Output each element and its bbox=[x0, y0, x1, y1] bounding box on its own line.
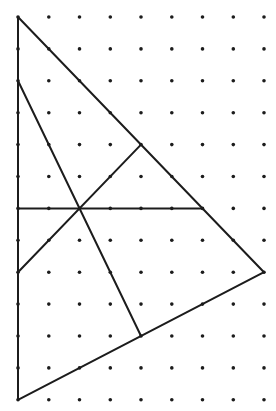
grid-dot bbox=[78, 270, 82, 274]
grid-dot bbox=[201, 175, 205, 179]
grid-dot bbox=[201, 47, 205, 51]
grid-dot bbox=[232, 302, 236, 306]
grid-dot bbox=[201, 143, 205, 147]
grid-dot bbox=[201, 15, 205, 19]
grid-dot bbox=[262, 302, 266, 306]
grid-dot bbox=[139, 398, 143, 402]
grid-dot bbox=[201, 270, 205, 274]
grid-dot bbox=[78, 15, 82, 19]
grid-dot bbox=[47, 302, 51, 306]
grid-dot bbox=[47, 79, 51, 83]
grid-dot bbox=[170, 47, 174, 51]
grid-dot bbox=[232, 111, 236, 115]
grid-dot bbox=[109, 79, 113, 83]
grid-dot bbox=[139, 111, 143, 115]
grid-dot bbox=[170, 15, 174, 19]
grid-dot bbox=[201, 398, 205, 402]
grid-dot bbox=[109, 47, 113, 51]
grid-dot bbox=[262, 398, 266, 402]
grid-dot bbox=[109, 366, 113, 370]
grid-dot bbox=[262, 207, 266, 211]
figure-lines bbox=[18, 17, 264, 400]
grid-dot bbox=[47, 175, 51, 179]
grid-dot bbox=[232, 270, 236, 274]
grid-dot bbox=[139, 366, 143, 370]
grid-dot bbox=[139, 239, 143, 243]
grid-dot bbox=[232, 207, 236, 211]
grid-dot bbox=[78, 175, 82, 179]
grid-dot bbox=[47, 111, 51, 115]
grid-dot bbox=[232, 15, 236, 19]
grid-dot bbox=[78, 111, 82, 115]
grid-dot bbox=[170, 302, 174, 306]
grid-dot bbox=[170, 239, 174, 243]
grid-dot bbox=[170, 270, 174, 274]
grid-dot bbox=[139, 302, 143, 306]
grid-dot bbox=[201, 111, 205, 115]
grid-dot bbox=[78, 334, 82, 338]
grid-dot bbox=[201, 366, 205, 370]
grid-dot bbox=[232, 175, 236, 179]
grid-dot bbox=[232, 79, 236, 83]
grid-dot bbox=[232, 366, 236, 370]
grid-dot bbox=[109, 398, 113, 402]
grid-dot bbox=[262, 175, 266, 179]
grid-dot bbox=[262, 79, 266, 83]
grid-dot bbox=[170, 143, 174, 147]
grid-dot bbox=[78, 47, 82, 51]
grid-dot bbox=[170, 334, 174, 338]
grid-dot bbox=[139, 47, 143, 51]
grid-dot bbox=[232, 47, 236, 51]
grid-dot bbox=[47, 15, 51, 19]
grid-dot bbox=[262, 15, 266, 19]
grid-dot bbox=[47, 366, 51, 370]
grid-dot bbox=[201, 79, 205, 83]
grid-dot bbox=[232, 334, 236, 338]
grid-dot bbox=[139, 175, 143, 179]
grid-dot bbox=[109, 143, 113, 147]
grid-dot bbox=[232, 143, 236, 147]
grid-dot bbox=[262, 47, 266, 51]
grid-dot bbox=[201, 334, 205, 338]
grid-dot bbox=[139, 79, 143, 83]
grid-dot bbox=[47, 398, 51, 402]
grid-dot bbox=[47, 334, 51, 338]
grid-dot bbox=[109, 334, 113, 338]
grid-dot bbox=[47, 270, 51, 274]
grid-dot bbox=[262, 239, 266, 243]
grid-dot bbox=[262, 143, 266, 147]
grid-dot bbox=[232, 398, 236, 402]
grid-dot bbox=[170, 366, 174, 370]
dot-grid-diagram bbox=[0, 0, 276, 411]
grid-dot bbox=[139, 270, 143, 274]
grid-dot bbox=[201, 239, 205, 243]
grid-dot bbox=[262, 366, 266, 370]
grid-dot bbox=[170, 79, 174, 83]
grid-dot bbox=[78, 239, 82, 243]
grid-dot bbox=[262, 334, 266, 338]
grid-dot bbox=[78, 143, 82, 147]
grid-dot bbox=[109, 302, 113, 306]
grid-dot bbox=[78, 302, 82, 306]
grid-dot bbox=[170, 111, 174, 115]
grid-dot bbox=[109, 15, 113, 19]
grid-dot bbox=[109, 239, 113, 243]
grid-dot bbox=[78, 398, 82, 402]
grid-dot bbox=[139, 15, 143, 19]
grid-dot bbox=[262, 111, 266, 115]
grid-dot bbox=[170, 398, 174, 402]
